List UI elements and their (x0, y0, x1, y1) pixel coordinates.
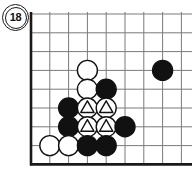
white-stone[interactable] (77, 98, 97, 118)
white-stone[interactable] (96, 98, 116, 118)
black-stone[interactable] (77, 136, 97, 156)
diagram-number-text: 18 (3, 5, 28, 30)
white-stone[interactable] (96, 117, 116, 137)
black-stone[interactable] (153, 60, 173, 80)
white-stone[interactable] (77, 60, 97, 80)
go-board[interactable] (0, 0, 192, 181)
black-stone[interactable] (59, 98, 79, 118)
black-stone[interactable] (115, 117, 135, 137)
white-stone[interactable] (59, 136, 79, 156)
white-stone[interactable] (77, 79, 97, 99)
white-stone[interactable] (40, 136, 60, 156)
go-diagram-figure: 18 (0, 0, 192, 181)
black-stone[interactable] (96, 136, 116, 156)
black-stone[interactable] (59, 117, 79, 137)
black-stone[interactable] (96, 79, 116, 99)
white-stone[interactable] (77, 117, 97, 137)
diagram-number-badge: 18 (2, 4, 29, 31)
